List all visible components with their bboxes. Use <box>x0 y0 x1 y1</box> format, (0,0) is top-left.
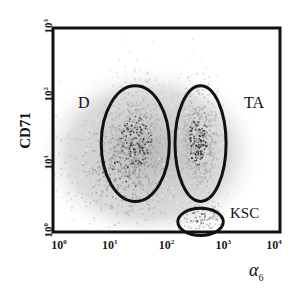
flow-cytometry-plot <box>0 0 292 291</box>
y-tick-label: 102 <box>42 82 55 106</box>
gate-label-ksc: KSC <box>230 205 259 222</box>
gate-label-ta: TA <box>244 94 264 112</box>
x-tick-label: 100 <box>45 238 73 253</box>
x-tick-label: 102 <box>153 238 181 253</box>
y-axis-label: CD71 <box>17 106 34 156</box>
y-tick-label: 101 <box>42 150 55 174</box>
x-tick-label: 103 <box>209 238 237 253</box>
gate-label-d: D <box>78 94 90 112</box>
y-tick-label: 103 <box>42 14 55 38</box>
x-tick-label: 104 <box>260 238 288 253</box>
x-axis-label: α6 <box>249 260 263 283</box>
x-tick-label: 101 <box>96 238 124 253</box>
